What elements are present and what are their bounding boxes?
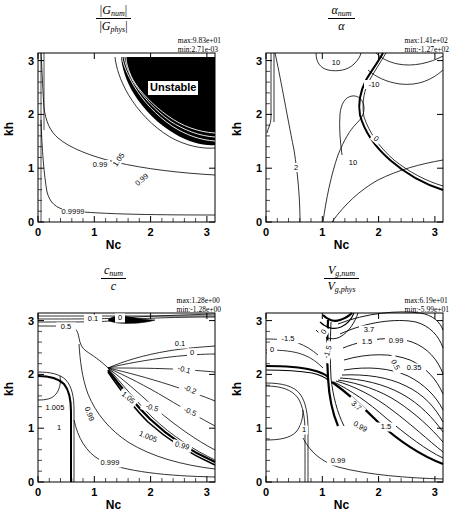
panel1-xtick-0: 0 — [35, 226, 41, 238]
panel4-ytick-2: 2 — [256, 368, 262, 380]
panel1-xlabel: Nc — [0, 238, 227, 252]
panel4-label-035: 0.35 — [407, 363, 422, 372]
panel3-label-01-top: 0.1 — [88, 314, 98, 323]
panel4-label-37-top: 3.7 — [364, 325, 374, 334]
panel4-label-099-bottom: 0.99 — [331, 456, 346, 465]
panel3-xtick-0: 0 — [35, 486, 41, 498]
panel1-ylabel: kh — [2, 122, 16, 136]
panel3-label-05: 0.5 — [61, 322, 71, 331]
panel2-xtick-2: 2 — [376, 226, 382, 238]
panel3-ytick-3: 3 — [28, 315, 34, 327]
panel4-ytick-3: 3 — [256, 315, 262, 327]
panel-amplification-ratio: |Gnum| |Gphys| max:9.83e+01 min:2.71e-03 — [0, 0, 227, 260]
panel4-label-0-left: 0 — [270, 345, 274, 354]
panel2-contour-label-10b: 10 — [349, 158, 357, 167]
panel4-label-099-top: 0.99 — [389, 336, 404, 345]
panel4-label-15-mid: 1.5 — [381, 422, 391, 431]
panel4-xtick-1: 1 — [319, 486, 325, 498]
panel4-xtick-3: 3 — [432, 486, 438, 498]
panel3-xtick-3: 3 — [204, 486, 210, 498]
panel4-label-15-top: 1.5 — [362, 337, 372, 346]
panel1-xtick-1: 1 — [91, 226, 97, 238]
panel3-label-099-left: 0.99 — [83, 405, 97, 422]
panel2-xlabel: Nc — [228, 238, 455, 252]
panel2-contour-label-neg10: -10 — [369, 80, 380, 89]
panel1-xtick-2: 2 — [148, 226, 154, 238]
panel3-xtick-1: 1 — [91, 486, 97, 498]
panel2-contour-label-2: 2 — [294, 163, 298, 172]
unstable-annotation: Unstable — [147, 80, 199, 96]
panel1-plot: 0 1 2 3 0 1 2 3 1.05 0.99 0.99 0. — [0, 0, 227, 260]
panel4-ylabel: kh — [230, 382, 244, 396]
panel2-xtick-0: 0 — [263, 226, 269, 238]
panel1-contour-label-09999: 0.9999 — [62, 207, 85, 216]
panel4-xtick-2: 2 — [376, 486, 382, 498]
panel3-label-neg01: -0.1 — [177, 364, 192, 376]
panel3-label-099-right: 0.99 — [174, 439, 191, 452]
panel3-label-0999: 0.999 — [101, 458, 120, 467]
panel2-xtick-3: 3 — [432, 226, 438, 238]
panel1-ytick-2: 2 — [28, 108, 34, 120]
unstable-region — [121, 57, 215, 145]
panel-phase-speed-ratio: cnum c max:1.28e+00 min:-1.28e+00 — [0, 260, 227, 520]
panel3-label-0-top: 0 — [118, 313, 122, 322]
panel4-xtick-0: 0 — [263, 486, 269, 498]
panel3-plot: 0 1 2 3 0 1 2 3 0.1 0 0.5 0.1 0 -0.1 -0.… — [0, 260, 227, 520]
panel2-ytick-1: 1 — [256, 162, 262, 174]
panel3-ylabel: kh — [2, 382, 16, 396]
panel2-xtick-1: 1 — [319, 226, 325, 238]
panel4-ytick-1: 1 — [256, 422, 262, 434]
panel1-contour-label-099b: 0.99 — [93, 160, 108, 169]
panel3-xlabel: Nc — [0, 498, 227, 512]
figure-canvas: |Gnum| |Gphys| max:9.83e+01 min:2.71e-03 — [0, 0, 455, 520]
panel2-ytick-2: 2 — [256, 108, 262, 120]
panel2-plot: 0 1 2 3 0 1 2 3 10 -10 0 10 — [228, 0, 455, 260]
panel4-ytick-0: 0 — [256, 476, 262, 488]
panel4-label-1: 1 — [302, 425, 306, 434]
panel2-ytick-0: 0 — [256, 216, 262, 228]
panel4-plot: 0 1 2 3 0 1 2 3 -1.5 0 0 -1.5 3.7 1.5 0.… — [228, 260, 455, 520]
panel1-ytick-0: 0 — [28, 216, 34, 228]
panel1-ytick-3: 3 — [28, 55, 34, 67]
panel2-contour-label-10a: 10 — [332, 58, 340, 67]
panel3-label-01-right: 0.1 — [175, 339, 185, 348]
panel3-label-1: 1 — [57, 423, 61, 432]
panel4-label-neg15-mid: -1.5 — [321, 344, 334, 359]
panel3-xtick-2: 2 — [148, 486, 154, 498]
panel3-label-1005-left: 1.005 — [46, 403, 65, 412]
panel4-xlabel: Nc — [228, 498, 455, 512]
panel2-ytick-3: 3 — [256, 55, 262, 67]
panel-dissipation-ratio: αnum α max:1.41e+02 min:-1.27e+02 — [228, 0, 455, 260]
panel1-ytick-1: 1 — [28, 162, 34, 174]
panel3-ytick-2: 2 — [28, 368, 34, 380]
panel3-ytick-0: 0 — [28, 476, 34, 488]
panel2-ylabel: kh — [230, 122, 244, 136]
panel1-xtick-3: 3 — [204, 226, 210, 238]
panel3-ytick-1: 1 — [28, 422, 34, 434]
panel4-label-neg15-left: -1.5 — [282, 334, 295, 343]
panel-group-velocity-ratio: Vg,num Vg,phys max:6.19e+01 min:-5.99e+0… — [228, 260, 455, 520]
panel3-label-0-right: 0 — [190, 348, 194, 357]
